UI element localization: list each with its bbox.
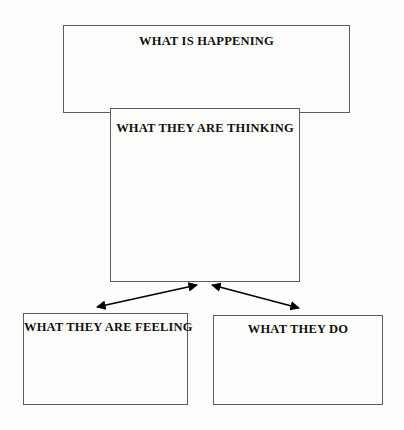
box-what-they-are-feeling-label: WHAT THEY ARE FEELING xyxy=(24,320,187,335)
box-what-is-happening[interactable]: WHAT IS HAPPENING xyxy=(63,25,350,113)
arrow-thinking-to-feeling xyxy=(97,285,197,307)
box-what-they-are-thinking-label: WHAT THEY ARE THINKING xyxy=(111,121,299,136)
box-what-is-happening-label: WHAT IS HAPPENING xyxy=(64,34,349,49)
box-what-they-do[interactable]: WHAT THEY DO xyxy=(213,315,383,405)
arrow-thinking-to-do xyxy=(212,285,299,308)
box-what-they-do-label: WHAT THEY DO xyxy=(214,322,382,337)
box-what-they-are-thinking[interactable]: WHAT THEY ARE THINKING xyxy=(110,108,300,282)
box-what-they-are-feeling[interactable]: WHAT THEY ARE FEELING xyxy=(23,313,188,405)
diagram-canvas: WHAT IS HAPPENING WHAT THEY ARE THINKING… xyxy=(0,0,404,430)
